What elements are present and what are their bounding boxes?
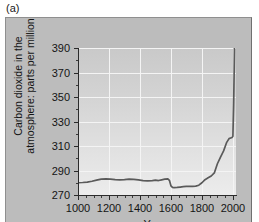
y-tick-390 [74,48,78,49]
y-tick-370 [74,73,78,74]
y-tick-label-390: 390 [52,42,70,54]
y-tick-label-270: 270 [52,189,70,201]
x-minor-tick-1050 [86,196,87,198]
x-tick-1400 [140,196,141,200]
x-minor-tick-1850 [210,196,211,198]
x-minor-tick-1500 [156,196,157,198]
chart-panel: Carbon dioxide in the atmosphere: parts … [5,17,252,222]
y-minor-tick-340 [76,109,78,110]
x-tick-label-1400: 1400 [128,202,152,214]
x-tick-2000 [233,196,234,200]
y-minor-tick-280 [76,183,78,184]
y-minor-tick-300 [76,158,78,159]
x-minor-tick-1950 [225,196,226,198]
x-tick-1000 [78,196,79,200]
x-minor-tick-1750 [194,196,195,198]
y-tick-290 [74,171,78,172]
x-minor-tick-1700 [186,196,187,198]
y-axis-line [78,48,79,196]
y-minor-tick-320 [76,134,78,135]
y-tick-label-370: 370 [52,67,70,79]
x-minor-tick-1550 [163,196,164,198]
x-minor-tick-1250 [117,196,118,198]
figure-container: (a) Carbon dioxide in the atmosphere: pa… [0,0,259,222]
y-minor-tick-380 [76,60,78,61]
x-minor-tick-1900 [217,196,218,198]
x-minor-tick-1450 [148,196,149,198]
y-minor-tick-360 [76,85,78,86]
x-tick-label-1200: 1200 [97,202,121,214]
y-tick-label-350: 350 [52,91,70,103]
x-tick-label-1000: 1000 [66,202,90,214]
x-minor-tick-1350 [132,196,133,198]
y-tick-label-330: 330 [52,116,70,128]
x-tick-label-1800: 1800 [190,202,214,214]
co2-curve [78,48,236,195]
x-axis-label: Year [73,218,236,222]
y-axis-label: Carbon dioxide in the atmosphere: parts … [12,6,36,166]
y-tick-label-290: 290 [52,165,70,177]
x-tick-1800 [202,196,203,200]
x-tick-label-1600: 1600 [159,202,183,214]
x-tick-1600 [171,196,172,200]
x-minor-tick-1150 [101,196,102,198]
x-minor-tick-1300 [125,196,126,198]
y-tick-350 [74,97,78,98]
y-tick-310 [74,146,78,147]
x-minor-tick-1100 [94,196,95,198]
x-tick-label-2000: 2000 [221,202,245,214]
x-minor-tick-1650 [179,196,180,198]
x-tick-1200 [109,196,110,200]
y-tick-330 [74,122,78,123]
plot-wrapper: 270290310330350370390 100012001400160018… [73,48,236,195]
y-tick-label-310: 310 [52,140,70,152]
